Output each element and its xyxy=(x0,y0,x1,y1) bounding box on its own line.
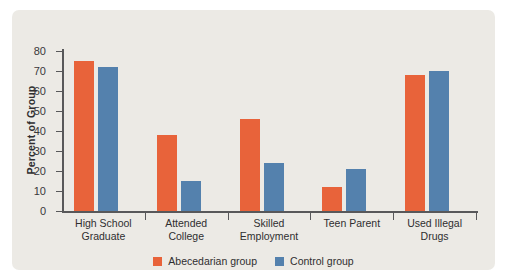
y-tick-label-40: 40 xyxy=(34,125,46,137)
bar xyxy=(74,61,94,211)
y-tick-label-50: 50 xyxy=(34,105,46,117)
bar-group xyxy=(62,51,145,211)
x-axis-label-line: Graduate xyxy=(62,230,145,243)
legend-item[interactable]: Abecedarian group xyxy=(153,255,257,267)
x-tick xyxy=(476,213,477,220)
bar xyxy=(98,67,118,211)
y-tick-0: 0 xyxy=(56,211,64,212)
x-axis-label-line: Used Illegal xyxy=(393,217,476,230)
x-axis-label: Used IllegalDrugs xyxy=(393,217,476,242)
x-axis-label: AttendedCollege xyxy=(145,217,228,242)
y-tick-label-0: 0 xyxy=(40,205,46,217)
x-axis-label: SkilledEmployment xyxy=(228,217,311,242)
chart-figure: Percent of Group 80706050403020100 High … xyxy=(12,10,495,270)
legend-item[interactable]: Control group xyxy=(275,255,354,267)
bar xyxy=(264,163,284,211)
x-axis-label: High SchoolGraduate xyxy=(62,217,145,242)
bar-group xyxy=(228,51,311,211)
y-tick-label-60: 60 xyxy=(34,85,46,97)
bar-group xyxy=(393,51,476,211)
legend-swatch-icon xyxy=(275,257,284,266)
bar xyxy=(322,187,342,211)
x-axis-label-line: Teen Parent xyxy=(310,217,393,230)
x-axis-label-line: College xyxy=(145,230,228,243)
bar xyxy=(429,71,449,211)
bar xyxy=(405,75,425,211)
x-axis-line xyxy=(62,211,478,213)
x-axis-label-line: Attended xyxy=(145,217,228,230)
y-tick-label-10: 10 xyxy=(34,185,46,197)
bar xyxy=(157,135,177,211)
x-axis-label-line: Skilled xyxy=(228,217,311,230)
y-tick-label-20: 20 xyxy=(34,165,46,177)
legend-label: Abecedarian group xyxy=(168,255,257,267)
bar xyxy=(181,181,201,211)
x-axis-label-line: High School xyxy=(62,217,145,230)
x-axis-label: Teen Parent xyxy=(310,217,393,230)
y-tick-label-70: 70 xyxy=(34,65,46,77)
legend-label: Control group xyxy=(290,255,354,267)
bar-group xyxy=(310,51,393,211)
bar xyxy=(346,169,366,211)
chart-legend: Abecedarian groupControl group xyxy=(12,255,495,267)
x-axis-label-line: Drugs xyxy=(393,230,476,243)
y-tick-label-30: 30 xyxy=(34,145,46,157)
legend-swatch-icon xyxy=(153,257,162,266)
y-tick-label-80: 80 xyxy=(34,45,46,57)
bar xyxy=(240,119,260,211)
bar-group xyxy=(145,51,228,211)
plot-area: 80706050403020100 xyxy=(62,51,476,211)
x-axis-label-line: Employment xyxy=(228,230,311,243)
